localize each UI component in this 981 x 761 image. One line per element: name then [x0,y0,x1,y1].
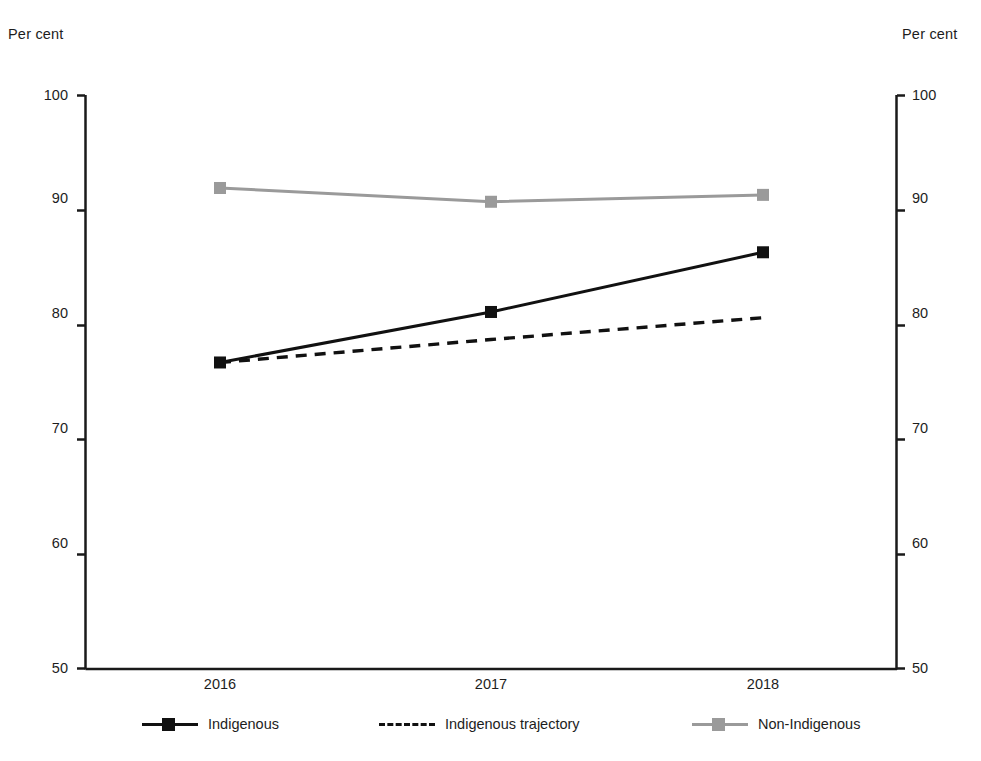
series-indigenous [214,246,769,368]
chart-legend: Indigenous Indigenous trajectory Non-Ind… [0,705,981,745]
legend-swatch-non-indigenous-icon [692,716,748,732]
legend-label-indigenous: Indigenous [208,716,279,732]
y-axis-ticks-left [77,96,85,669]
plot-area [0,0,981,761]
y-axis-ticks-right [897,96,905,669]
data-point-marker [214,182,226,194]
legend-swatch-indigenous-trajectory-icon [379,716,435,732]
legend-label-indigenous-trajectory: Indigenous trajectory [445,716,580,732]
chart-container: Per cent Per cent 100 90 80 70 60 50 100… [0,0,981,761]
series-indigenous-trajectory [220,318,763,363]
legend-item-indigenous: Indigenous [142,711,279,737]
data-point-marker [757,246,769,258]
data-point-marker [485,196,497,208]
data-point-marker [757,189,769,201]
legend-item-non-indigenous: Non-Indigenous [692,711,860,737]
legend-item-indigenous-trajectory: Indigenous trajectory [379,711,580,737]
series-line [220,318,763,363]
data-point-marker [485,306,497,318]
legend-label-non-indigenous: Non-Indigenous [758,716,860,732]
legend-swatch-indigenous-icon [142,716,198,732]
series-non-indigenous [214,182,769,208]
